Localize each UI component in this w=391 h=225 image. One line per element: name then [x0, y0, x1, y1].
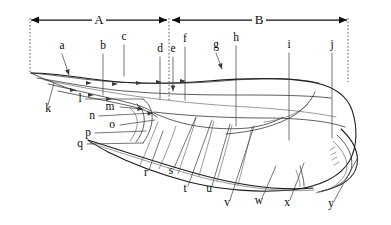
label-m: m — [106, 100, 115, 112]
span-bracket-a: A — [31, 12, 167, 27]
tail-hatch-2 — [331, 152, 336, 155]
part-label-i: i — [287, 38, 290, 140]
leader-line-n — [99, 113, 153, 116]
span-brackets-layer: AB — [31, 12, 347, 27]
dorsal-seta-3 — [136, 81, 142, 85]
segment-rib-6 — [238, 127, 252, 185]
leader-line-x — [290, 163, 304, 200]
dorsal-seta-1 — [86, 81, 92, 85]
segment-rib-2 — [159, 126, 176, 169]
ventral-lower-contour — [88, 140, 313, 189]
part-label-c: c — [121, 30, 126, 76]
part-label-u: u — [206, 124, 230, 194]
label-t: t — [183, 182, 187, 194]
body-outer-contour — [31, 73, 356, 191]
label-i: i — [287, 38, 290, 50]
part-label-f: f — [183, 32, 187, 100]
label-x: x — [284, 196, 290, 208]
label-s: s — [169, 164, 174, 176]
label-w: w — [255, 194, 264, 206]
span-bracket-b: B — [172, 12, 347, 27]
leader-line-w — [262, 166, 276, 198]
leader-arrowhead-a — [65, 69, 70, 75]
label-n: n — [89, 109, 95, 121]
label-b: b — [100, 39, 106, 51]
leader-line-s — [174, 117, 196, 168]
label-a: a — [59, 39, 64, 51]
span-label-a: A — [94, 12, 104, 27]
span-label-b: B — [255, 12, 264, 27]
leader-line-y — [334, 159, 357, 201]
span-arrowhead-right-b — [339, 16, 347, 23]
leader-line-v — [230, 126, 254, 200]
label-o: o — [109, 118, 115, 130]
label-l: l — [78, 92, 81, 104]
dorsal-upper-edge — [31, 73, 319, 83]
leader-line-t — [188, 120, 212, 186]
label-j: j — [329, 38, 333, 51]
posterior-surface-ridge — [226, 92, 315, 134]
label-c: c — [121, 30, 126, 42]
segment-rib-4 — [199, 121, 214, 176]
part-label-k: k — [45, 83, 54, 114]
part-label-b: b — [100, 39, 106, 95]
figure-root: AB abcdefghijklmnopqrstuvwxy — [0, 0, 391, 225]
appendage-bundle-inner2 — [130, 108, 137, 141]
diagram-canvas: AB abcdefghijklmnopqrstuvwxy — [0, 0, 391, 225]
ventral-inner-curve — [152, 112, 283, 129]
dashed-guides-layer — [30, 18, 348, 100]
specimen-outline-group — [31, 73, 357, 193]
label-f: f — [183, 32, 187, 44]
leader-arrowhead-e — [171, 86, 176, 92]
tail-hatch-1 — [330, 147, 335, 150]
ventral-seta-1 — [70, 88, 76, 92]
label-v: v — [224, 196, 230, 208]
leader-line-u — [212, 124, 230, 186]
label-p: p — [85, 126, 91, 139]
label-e: e — [170, 42, 175, 54]
label-d: d — [157, 42, 163, 54]
leader-line-q — [87, 143, 143, 144]
label-y: y — [328, 197, 334, 210]
part-label-s: s — [169, 117, 196, 176]
part-label-q: q — [77, 137, 143, 150]
span-arrowhead-right-a — [159, 16, 167, 23]
segment-rib-3 — [178, 118, 196, 174]
part-label-d: d — [157, 42, 163, 99]
label-g: g — [213, 38, 219, 51]
span-arrowhead-left-b — [172, 16, 180, 23]
part-label-y: y — [328, 159, 357, 210]
leader-line-o — [120, 120, 155, 125]
mid-dorsal-ridge — [154, 112, 345, 127]
tail-hatch-3 — [332, 157, 337, 160]
tail-hatch-4 — [334, 162, 339, 165]
span-arrowhead-left-a — [31, 16, 39, 23]
label-r: r — [144, 166, 148, 178]
label-k: k — [45, 102, 51, 114]
part-label-o: o — [109, 118, 155, 130]
part-label-g: g — [213, 38, 222, 69]
label-q: q — [77, 137, 83, 150]
label-h: h — [233, 31, 239, 43]
part-label-h: h — [233, 31, 239, 126]
ventral-lower-contour-shadow — [90, 143, 314, 191]
dorsal-third-line — [44, 80, 336, 117]
leader-line-p — [95, 131, 146, 133]
label-u: u — [206, 182, 212, 194]
part-label-a: a — [59, 39, 69, 75]
dorsal-seta-2 — [112, 82, 118, 86]
leader-arrowhead-g — [218, 63, 222, 69]
